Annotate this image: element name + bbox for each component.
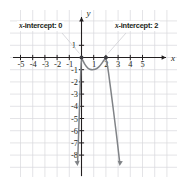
x-intercept-label-right-text: -intercept: 2	[119, 21, 159, 30]
x-intercept-label-left-text: -intercept: 0	[23, 21, 63, 30]
svg-text:3: 3	[116, 60, 120, 69]
svg-text:y: y	[86, 8, 91, 18]
svg-text:-4: -4	[30, 60, 38, 69]
grid-lines	[10, 10, 177, 177]
svg-text:-4: -4	[71, 102, 79, 111]
svg-text:-5: -5	[71, 115, 78, 124]
svg-text:-3: -3	[42, 60, 49, 69]
svg-text:-8: -8	[71, 151, 78, 160]
svg-text:5: 5	[140, 60, 144, 69]
svg-text:-5: -5	[18, 60, 25, 69]
svg-text:-3: -3	[71, 90, 78, 99]
svg-text:4: 4	[128, 60, 133, 69]
svg-text:-6: -6	[71, 127, 78, 136]
svg-text:-7: -7	[71, 139, 78, 148]
svg-text:x: x	[170, 53, 175, 63]
svg-text:-1: -1	[71, 66, 78, 75]
x-intercept-label-left: x-intercept: 0	[17, 21, 64, 31]
coordinate-graph-figure: -5-4-3-2-1345121-1-2-3-4-5-6-7-8 xy x-in…	[0, 0, 183, 184]
svg-text:-2: -2	[54, 60, 61, 69]
svg-text:1: 1	[92, 60, 96, 69]
svg-text:-2: -2	[71, 78, 78, 87]
x-intercept-label-right: x-intercept: 2	[113, 21, 160, 31]
axes	[13, 17, 166, 176]
